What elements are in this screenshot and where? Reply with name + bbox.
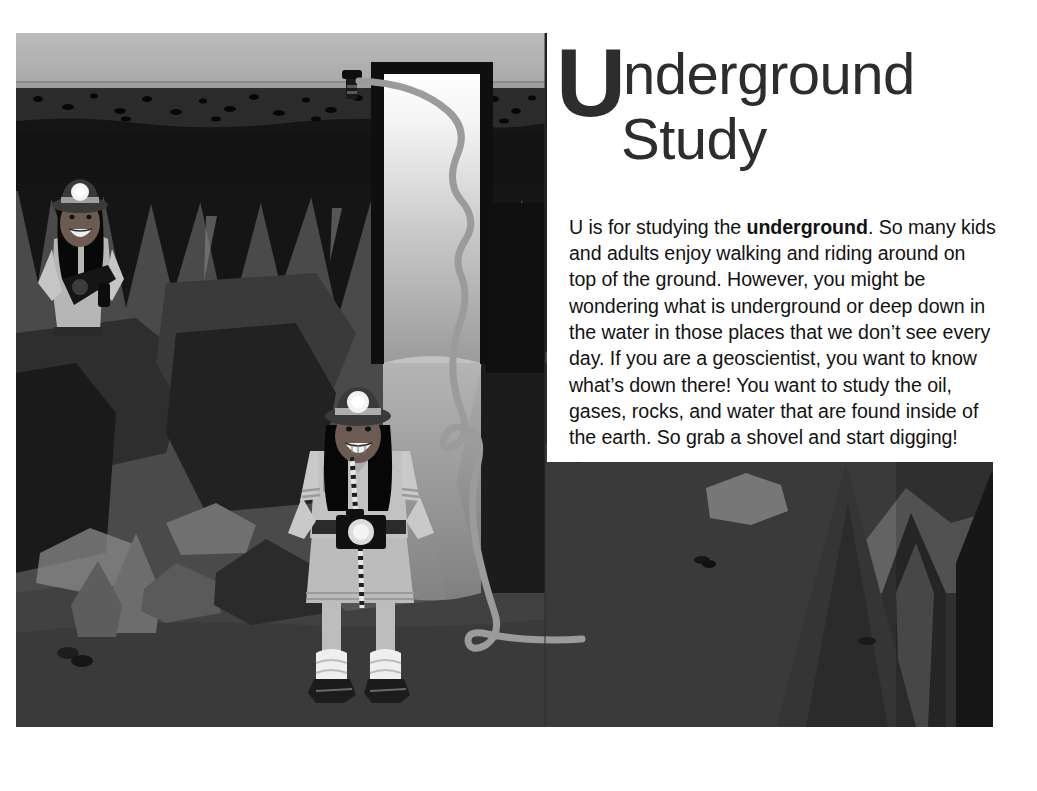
page-title: Underground Study [556,44,1026,166]
body-part-1: U is for studying the [569,216,747,238]
body-paragraph: U is for studying the underground. So ma… [569,214,997,451]
article-text-panel: Underground Study U is for studying the … [547,0,1037,462]
title-line-1-text: nderground [623,41,915,106]
body-bold-term: underground [747,216,868,238]
body-part-2: . So many kids and adults enjoy walking … [569,216,996,449]
page-root: Underground Study U is for studying the … [0,0,1037,791]
drop-cap-letter: U [556,28,623,137]
